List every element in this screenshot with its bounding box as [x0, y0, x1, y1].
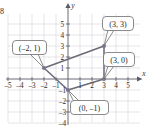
callout-label-3-3: (3, 3)	[109, 20, 127, 29]
x-tick-label: –2	[39, 82, 48, 90]
callout-3-3: (3, 3)	[103, 17, 134, 47]
y-tick-labels: 5 4 3 2 1 –1 –2 –3 –4	[58, 21, 67, 128]
x-tick-label: 3	[102, 82, 106, 90]
callout-label-3-0: (3, 0)	[110, 56, 128, 65]
callout-0-neg1: (0, –1)	[68, 90, 109, 115]
x-tick-label: 4	[114, 82, 118, 90]
callout-label-neg2-1: (–2, 1)	[19, 44, 41, 53]
y-tick-label: 2	[60, 54, 64, 62]
x-tick-label: 5	[126, 82, 130, 90]
y-tick-label: 1	[60, 65, 64, 73]
y-tick-label: 5	[60, 21, 64, 29]
y-tick-label: –2	[58, 98, 67, 106]
x-tick-label: –5	[3, 82, 12, 90]
y-tick-label: –4	[58, 120, 67, 128]
x-tick-label: 1	[78, 82, 82, 90]
y-tick-label: –3	[58, 109, 67, 117]
y-tick-label: 3	[60, 43, 64, 51]
callout-tail-3-3	[104, 30, 114, 46]
callout-3-0: (3, 0)	[104, 53, 135, 80]
x-tick-label: –3	[27, 82, 36, 90]
plot-area: –5 –4 –3 –2 –1 1 2 3 4 5 5 4 3 2 1 –1 –2…	[0, 0, 150, 131]
x-axis-label: x	[141, 69, 146, 78]
y-axis-label: y	[70, 1, 75, 10]
x-tick-label: 2	[90, 82, 94, 90]
x-tick-label: –4	[15, 82, 24, 90]
callout-label-0-neg1: (0, –1)	[79, 104, 101, 113]
coordinate-plane-figure: 8	[0, 0, 150, 131]
y-tick-label: –1	[58, 87, 67, 95]
y-tick-label: 4	[60, 32, 64, 40]
callout-neg2-1: (–2, 1)	[13, 41, 47, 69]
y-axis-arrow	[65, 3, 70, 8]
